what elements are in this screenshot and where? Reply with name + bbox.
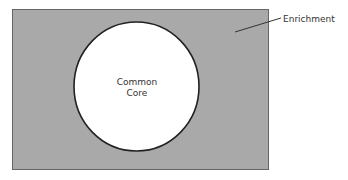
diagram-canvas: Common Core Enrichment [0, 0, 348, 180]
common-core-label-line1: Common [117, 77, 158, 87]
enrichment-label: Enrichment [283, 14, 335, 24]
common-core-label-line2: Core [127, 88, 148, 98]
